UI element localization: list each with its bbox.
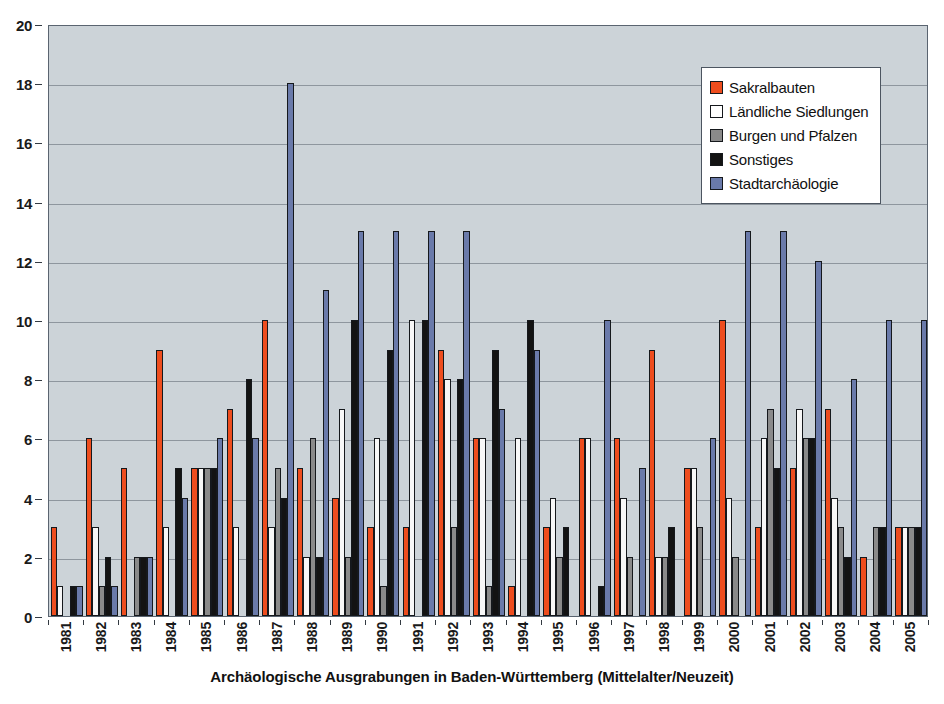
x-tick-label: 1982 (93, 622, 109, 652)
bar-group (331, 26, 366, 616)
x-tick-mark (259, 620, 260, 625)
bar (780, 231, 786, 616)
bar (76, 586, 82, 616)
y-axis: 02468101214161820 (0, 25, 42, 617)
y-tick-mark (35, 558, 42, 559)
bar (534, 350, 540, 616)
legend-swatch-laendliche-siedlungen-icon (710, 105, 723, 118)
x-tick-mark (787, 620, 788, 625)
x-tick-label: 1984 (163, 622, 179, 652)
x-tick-mark (435, 620, 436, 625)
legend-item: Stadtarchäologie (710, 171, 868, 195)
bar-group (542, 26, 577, 616)
x-tick-mark (541, 620, 542, 625)
y-tick-label: 10 (16, 313, 32, 330)
x-tick-mark (752, 620, 753, 625)
x-tick-mark (717, 620, 718, 625)
x-tick-mark (154, 620, 155, 625)
legend-item: Ländliche Siedlungen (710, 99, 868, 123)
bar-group (49, 26, 84, 616)
x-tick-label: 1994 (515, 622, 531, 652)
bar (515, 438, 521, 616)
bar (111, 586, 117, 616)
legend-item-label: Burgen und Pfalzen (729, 127, 857, 144)
x-tick-label: 1992 (445, 622, 461, 652)
y-tick-mark (35, 262, 42, 263)
y-tick-mark (35, 203, 42, 204)
bar (217, 438, 223, 616)
bar (393, 231, 399, 616)
bar (358, 231, 364, 616)
x-tick-label: 1985 (198, 622, 214, 652)
bar (860, 557, 866, 616)
y-tick-label: 20 (16, 17, 32, 34)
bar-group (612, 26, 647, 616)
x-tick-mark (365, 620, 366, 625)
y-tick-mark (35, 25, 42, 26)
y-tick-label: 12 (16, 253, 32, 270)
x-tick-label: 2000 (726, 622, 742, 652)
x-tick-mark (893, 620, 894, 625)
x-tick-mark (224, 620, 225, 625)
bar (563, 527, 569, 616)
x-tick-mark (576, 620, 577, 625)
bar (851, 379, 857, 616)
x-tick-label: 1989 (339, 622, 355, 652)
x-tick-mark (330, 620, 331, 625)
x-tick-mark (506, 620, 507, 625)
bar (409, 320, 415, 616)
x-tick-label: 2005 (902, 622, 918, 652)
bar (639, 468, 645, 616)
bar (463, 231, 469, 616)
bar (57, 586, 63, 616)
y-tick-label: 2 (24, 549, 32, 566)
y-tick-label: 4 (24, 490, 32, 507)
y-tick-mark (35, 321, 42, 322)
x-tick-mark (83, 620, 84, 625)
bar-group (401, 26, 436, 616)
chart-caption: Archäologische Ausgrabungen in Baden-Wür… (0, 668, 944, 685)
legend-item-label: Sakralbauten (729, 79, 815, 96)
bar (697, 527, 703, 616)
bar-group (190, 26, 225, 616)
bar (921, 320, 927, 616)
x-tick-mark (189, 620, 190, 625)
bar-group (436, 26, 471, 616)
legend-item: Sonstiges (710, 147, 868, 171)
x-tick-label: 2001 (762, 622, 778, 652)
x-tick-mark (294, 620, 295, 625)
x-tick-mark (48, 620, 49, 625)
bar (604, 320, 610, 616)
bar (147, 557, 153, 616)
x-tick-mark (646, 620, 647, 625)
bar-chart: 02468101214161820 1981198219831984198519… (0, 0, 944, 704)
bar (323, 290, 329, 616)
bar-group (155, 26, 190, 616)
bar-group (647, 26, 682, 616)
bar-group (84, 26, 119, 616)
y-tick-label: 6 (24, 431, 32, 448)
y-tick-label: 0 (24, 609, 32, 626)
bar (710, 438, 716, 616)
bar-group (471, 26, 506, 616)
x-tick-mark (822, 620, 823, 625)
legend-item: Sakralbauten (710, 75, 868, 99)
x-tick-label: 1997 (621, 622, 637, 652)
x-tick-label: 2002 (797, 622, 813, 652)
bar-group (119, 26, 154, 616)
bar-group (577, 26, 612, 616)
bar-group (295, 26, 330, 616)
bar (428, 231, 434, 616)
bar (182, 498, 188, 616)
legend-swatch-stadtarchaeologie-icon (710, 177, 723, 190)
y-tick-mark (35, 84, 42, 85)
x-tick-label: 2004 (867, 622, 883, 652)
bar (745, 231, 751, 616)
x-tick-mark (682, 620, 683, 625)
bar (252, 438, 258, 616)
x-tick-label: 1999 (691, 622, 707, 652)
x-tick-label: 1991 (410, 622, 426, 652)
x-tick-label: 1990 (374, 622, 390, 652)
bar (668, 527, 674, 616)
bar-group (366, 26, 401, 616)
